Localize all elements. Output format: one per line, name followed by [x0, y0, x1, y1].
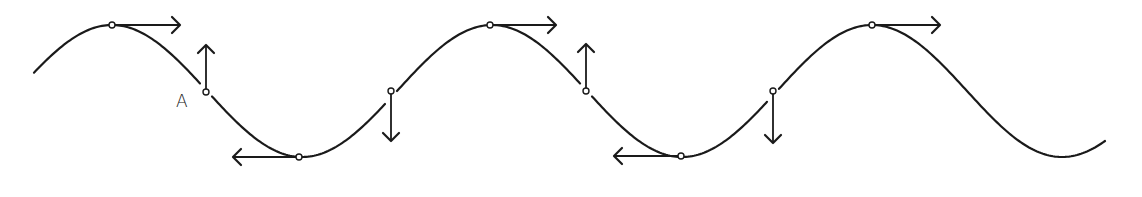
particle-point-rise-2 — [770, 88, 776, 94]
point-label-A: A — [176, 93, 188, 110]
particle-point-crest-2 — [487, 22, 493, 28]
particle-point-crest-3 — [869, 22, 875, 28]
particle-points — [109, 22, 875, 160]
velocity-arrows — [112, 17, 940, 165]
wave-segment — [779, 25, 1105, 157]
wave-segment — [34, 25, 200, 83]
wave-curve — [34, 25, 1105, 157]
particle-point-crest-1 — [109, 22, 115, 28]
particle-point-trough-2 — [678, 153, 684, 159]
wave-segment — [212, 96, 385, 157]
particle-point-A — [203, 89, 209, 95]
particle-point-fall-2 — [583, 88, 589, 94]
particle-point-rise-1 — [388, 88, 394, 94]
wave-diagram — [0, 0, 1142, 197]
particle-point-trough-1 — [296, 154, 302, 160]
wave-segment — [592, 96, 767, 157]
wave-segment — [397, 25, 580, 91]
